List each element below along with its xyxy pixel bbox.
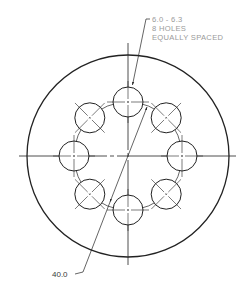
center-lines	[19, 43, 236, 265]
bolt-hole	[75, 103, 105, 133]
hole-callout-leader	[133, 19, 151, 85]
hole-note-line1: 6.0 - 6.3	[152, 15, 183, 24]
bolt-hole	[75, 179, 105, 209]
bolt-hole	[107, 189, 149, 231]
bolt-hole	[151, 179, 181, 209]
hole-note-line2: 8 HOLES	[152, 24, 186, 33]
bolt-hole	[151, 103, 181, 133]
technical-drawing: 6.0 - 6.3 8 HOLES EQUALLY SPACED 40.0	[0, 0, 250, 307]
hole-note-line3: EQUALLY SPACED	[152, 33, 224, 42]
bolt-hole	[107, 81, 149, 123]
bolt-hole	[161, 135, 203, 177]
bolt-circle-diameter-label: 40.0	[52, 270, 68, 279]
bolt-hole	[53, 135, 95, 177]
